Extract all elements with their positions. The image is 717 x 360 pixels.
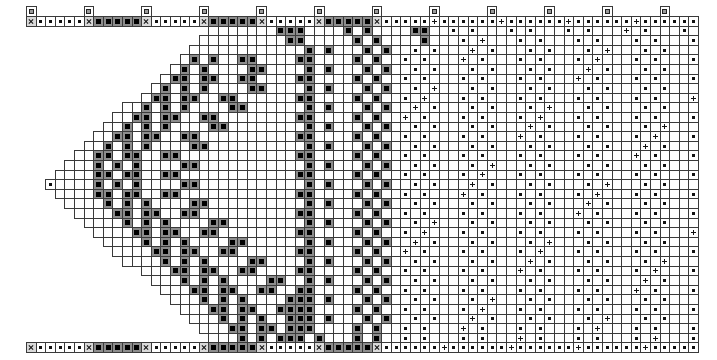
chart-grid [0,0,717,360]
repeat-tick-cell [602,6,613,17]
stitch-chart [0,0,717,360]
repeat-tick-cell [26,6,37,17]
repeat-tick-cell [544,6,555,17]
repeat-tick-cell [660,6,671,17]
repeat-tick-cell [429,6,440,17]
repeat-tick-cell [141,6,152,17]
repeat-tick-cell [199,6,210,17]
chart-cell [688,342,699,353]
repeat-tick-cell [372,6,383,17]
repeat-tick-cell [84,6,95,17]
repeat-tick-cell [487,6,498,17]
repeat-tick-cell [314,6,325,17]
repeat-tick-cell [256,6,267,17]
